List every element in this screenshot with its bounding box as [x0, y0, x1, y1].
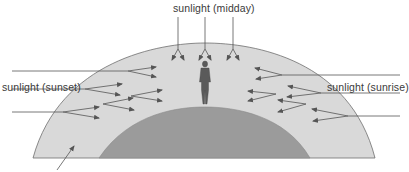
label-sunlight-sunset: sunlight (sunset) [2, 81, 81, 93]
label-sunlight-sunrise: sunlight (sunrise) [327, 81, 409, 93]
label-sunlight-midday: sunlight (midday) [173, 2, 255, 14]
